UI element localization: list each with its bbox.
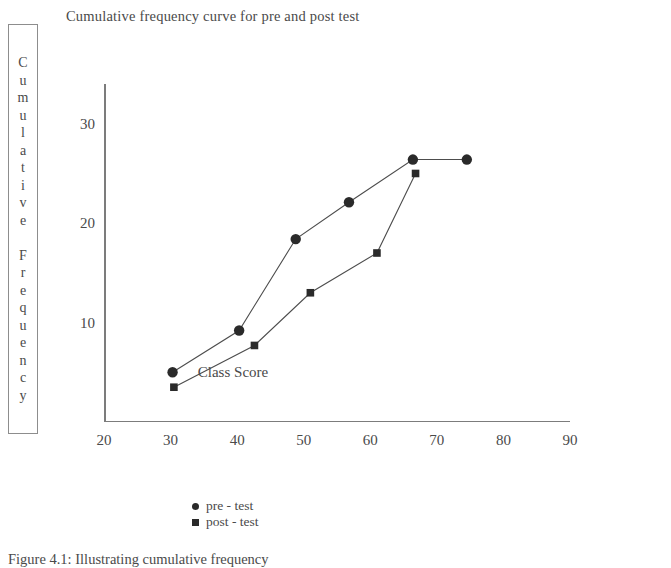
legend-item-post-test: post - test — [192, 514, 259, 530]
ylabel-char: m — [18, 89, 29, 107]
y-axis-tick-label: 10 — [80, 314, 95, 331]
y-axis-tick-label: 20 — [80, 215, 95, 232]
x-axis-tick-label: 60 — [363, 432, 378, 449]
y-axis-tick-label: 30 — [80, 115, 95, 132]
x-axis-tick-label: 50 — [296, 432, 311, 449]
ylabel-char: u — [20, 72, 27, 90]
series-line — [173, 160, 467, 373]
ylabel-char: t — [21, 159, 25, 177]
x-axis-tick-label: 70 — [429, 432, 444, 449]
ylabel-char: F — [19, 247, 27, 265]
data-point-circle — [291, 234, 301, 244]
ylabel-char: q — [20, 299, 27, 317]
data-point-square — [373, 249, 381, 257]
data-point-circle — [234, 325, 244, 335]
x-axis-tick-label: 40 — [230, 432, 245, 449]
ylabel-char: v — [20, 194, 27, 212]
legend-item-pre-test: pre - test — [192, 498, 259, 514]
series-line — [174, 173, 416, 387]
series-post-test — [170, 170, 419, 391]
ylabel-char: u — [20, 107, 27, 125]
ylabel-char: a — [20, 142, 26, 160]
ylabel-char: e — [20, 212, 26, 230]
circle-marker-icon — [192, 503, 199, 510]
figure-caption: Figure 4.1: Illustrating cumulative freq… — [8, 551, 269, 568]
ylabel-char: e — [20, 334, 26, 352]
x-axis-tick-label: 80 — [496, 432, 511, 449]
square-marker-icon — [192, 519, 199, 526]
data-point-square — [412, 170, 420, 178]
chart-title: Cumulative frequency curve for pre and p… — [66, 8, 359, 25]
data-point-square — [251, 342, 259, 350]
ylabel-char: y — [20, 387, 27, 405]
ylabel-char: C — [18, 54, 27, 72]
ylabel-char: r — [21, 264, 26, 282]
ylabel-char: e — [20, 282, 26, 300]
series-pre-test — [167, 154, 472, 377]
ylabel-char: i — [21, 177, 25, 195]
data-point-square — [307, 289, 315, 297]
x-axis-tick-label: 30 — [163, 432, 178, 449]
x-axis-tick-label: 20 — [97, 432, 112, 449]
data-point-square — [170, 383, 178, 391]
data-point-circle — [462, 154, 472, 164]
data-point-circle — [344, 197, 354, 207]
x-axis-tick-label: 90 — [563, 432, 578, 449]
x-axis-title: Class Score — [0, 364, 466, 381]
data-point-circle — [408, 154, 418, 164]
ylabel-char: l — [21, 124, 25, 142]
legend-label: pre - test — [206, 498, 253, 514]
chart-legend: pre - test post - test — [192, 498, 259, 530]
ylabel-char: u — [20, 317, 27, 335]
legend-label: post - test — [206, 514, 259, 530]
